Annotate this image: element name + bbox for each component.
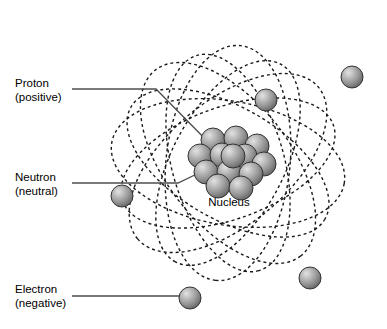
proton-label-qualifier: (positive) (15, 91, 62, 105)
electron-particle-1 (255, 89, 277, 111)
electron-particle-2 (111, 185, 133, 207)
electron-label-qualifier: (negative) (15, 297, 66, 311)
proton-label-name: Proton (15, 77, 49, 89)
atomic-structure-diagram: Proton (positive) Neutron (neutral) Elec… (0, 0, 387, 329)
leader-line-proton (72, 89, 216, 150)
callout-label-proton: Proton (positive) (15, 77, 62, 104)
nucleus-particle-12 (221, 144, 245, 168)
nucleus-particle-cluster (188, 126, 276, 200)
callout-label-electron: Electron (negative) (15, 283, 66, 310)
electron-particle-3 (299, 267, 321, 289)
nucleus-particle-10 (206, 174, 230, 198)
electron-particle-4 (179, 287, 201, 309)
atom-illustration-canvas (0, 0, 387, 329)
electron-label-name: Electron (15, 283, 57, 295)
leader-line-neutron (72, 171, 203, 183)
callout-label-neutron: Neutron (neutral) (15, 171, 58, 198)
neutron-label-qualifier: (neutral) (15, 185, 58, 199)
electron-particle-0 (341, 66, 363, 88)
neutron-label-name: Neutron (15, 171, 56, 183)
nucleus-label: Nucleus (198, 196, 260, 208)
